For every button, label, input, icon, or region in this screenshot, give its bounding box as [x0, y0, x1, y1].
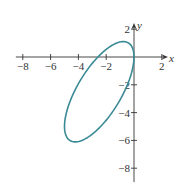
tick-marks [23, 29, 162, 168]
x-tick-label: 2 [159, 60, 165, 72]
y-tick-label: −6 [118, 134, 130, 146]
x-tick-label: −6 [45, 60, 57, 72]
tick-labels: −8−6−4−222−2−4−6−8 [17, 23, 165, 174]
x-axis-label: x [168, 52, 174, 64]
y-tick-label: −4 [118, 107, 130, 119]
y-axis-label: y [136, 19, 142, 31]
axes [16, 23, 168, 182]
x-tick-label: −2 [100, 60, 112, 72]
chart-plot: −8−6−4−222−2−4−6−8 x y [0, 0, 186, 186]
y-tick-label: −8 [118, 162, 130, 174]
y-tick-label: 2 [125, 23, 131, 35]
x-tick-label: −8 [17, 60, 29, 72]
x-tick-label: −4 [73, 60, 85, 72]
